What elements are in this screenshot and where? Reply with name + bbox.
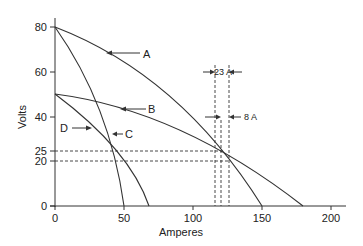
y-tick-label: 0 <box>41 200 47 212</box>
curves <box>55 27 303 206</box>
curve-b-label: B <box>148 103 155 115</box>
curve-c-label: C <box>125 128 133 140</box>
chart-svg: 0 20 25 40 60 80 0 50 100 150 200 Ampere… <box>0 0 363 246</box>
curve-d <box>55 94 149 206</box>
x-tick-label: 200 <box>322 212 340 224</box>
y-axis-title: Volts <box>16 105 28 129</box>
curve-a-label: A <box>143 48 151 60</box>
chart-container: 0 20 25 40 60 80 0 50 100 150 200 Ampere… <box>0 0 363 246</box>
curve-c <box>55 27 124 206</box>
y-ticks: 0 20 25 40 60 80 <box>35 21 55 212</box>
x-tick-label: 50 <box>118 212 130 224</box>
curve-label-arrows <box>72 51 146 137</box>
y-tick-label: 60 <box>35 66 47 78</box>
curve-b <box>55 94 303 206</box>
y-tick-label: 40 <box>35 111 47 123</box>
x-axis-title: Amperes <box>159 226 204 238</box>
y-tick-label: 80 <box>35 21 47 33</box>
curve-d-label: D <box>60 122 68 134</box>
reference-lines <box>55 65 230 206</box>
x-ticks: 0 50 100 150 200 <box>52 206 340 224</box>
x-tick-label: 150 <box>253 212 271 224</box>
y-tick-label: 25 <box>35 145 47 157</box>
x-tick-label: 100 <box>184 212 202 224</box>
x-tick-label: 0 <box>52 212 58 224</box>
annotation-23a: 23 A <box>214 67 232 77</box>
annotation-8a: 8 A <box>244 112 257 122</box>
annotation-8a-arrows <box>205 115 241 120</box>
